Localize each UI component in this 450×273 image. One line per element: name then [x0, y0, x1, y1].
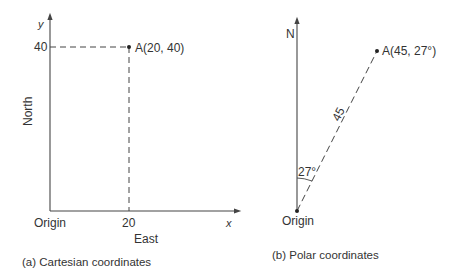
cartesian-panel: y 40 A(20, 40) North Origin 20 x East (a… — [21, 16, 238, 268]
polar-caption: (b) Polar coordinates — [272, 249, 379, 261]
x-axis-label: x — [225, 217, 232, 229]
x-tick-label: 20 — [122, 216, 136, 230]
east-label: East — [134, 232, 159, 246]
y-tick-label: 40 — [34, 40, 48, 54]
distance-label: 45 — [329, 105, 348, 124]
cartesian-caption: (a) Cartesian coordinates — [22, 256, 151, 268]
origin-label: Origin — [282, 214, 314, 228]
origin-point — [295, 209, 299, 213]
origin-label: Origin — [34, 216, 66, 230]
north-label: N — [286, 27, 295, 41]
point-a-label: A(20, 40) — [135, 41, 184, 55]
y-axis-label: y — [37, 18, 45, 30]
point-a-label: A(45, 27°) — [382, 44, 436, 58]
north-label: North — [21, 97, 35, 126]
point-a — [127, 45, 131, 49]
coordinates-diagram: y 40 A(20, 40) North Origin 20 x East (a… — [0, 0, 450, 273]
point-a — [375, 49, 379, 53]
angle-label: 27° — [298, 165, 316, 179]
polar-panel: N A(45, 27°) 45 27° Origin (b) Polar coo… — [272, 20, 436, 261]
radius-line — [297, 51, 377, 211]
